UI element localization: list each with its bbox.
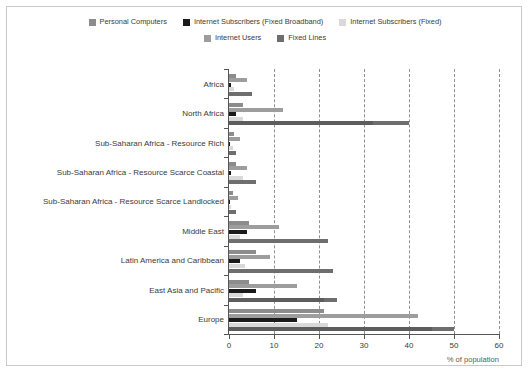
category-label: Africa [204, 79, 224, 88]
tick-50 [454, 334, 455, 339]
legend-swatch-internet-subscribers-fixed-broadband [183, 19, 190, 26]
bar [229, 259, 240, 263]
y-axis-tick [224, 128, 229, 129]
legend-label-internet-users: Internet Users [215, 32, 261, 44]
tick-0 [229, 334, 230, 339]
y-axis-tick [224, 69, 229, 70]
legend-label-personal-computers: Personal Computers [100, 16, 167, 28]
bar [229, 250, 256, 254]
bar-group: Sub-Saharan Africa - Resource Rich [229, 128, 499, 157]
plot-area: 0102030405060 AfricaNorth AfricaSub-Saha… [228, 69, 499, 334]
bar [229, 112, 236, 116]
bar-group: Europe [229, 305, 499, 334]
bar [229, 309, 324, 313]
bar [229, 108, 283, 112]
bar [229, 151, 236, 155]
legend-entry-fixed-lines[interactable]: Fixed Lines [277, 32, 326, 44]
legend-row-1: Personal Computers Internet Subscribers … [7, 16, 523, 28]
bar [229, 176, 243, 180]
bar [229, 92, 252, 96]
legend-label-internet-subscribers-fixed: Internet Subscribers (Fixed) [350, 16, 441, 28]
bar [229, 180, 256, 184]
bar [229, 284, 297, 288]
tick-label-60: 60 [495, 341, 504, 350]
gridline-60 [499, 69, 500, 334]
y-axis-tick [224, 305, 229, 306]
bar [229, 230, 247, 234]
bar [229, 103, 243, 107]
bar [229, 142, 230, 146]
tick-30 [364, 334, 365, 339]
bar [229, 146, 233, 150]
category-label: Sub-Saharan Africa - Resource Rich [95, 138, 224, 147]
bar [229, 87, 234, 91]
category-label: Sub-Saharan Africa - Resource Scarce Coa… [57, 168, 224, 177]
bar-group: Sub-Saharan Africa - Resource Scarce Lan… [229, 187, 499, 216]
y-axis-tick [224, 187, 229, 188]
legend-row-2: Internet Users Fixed Lines [7, 32, 523, 44]
bar [229, 293, 243, 297]
category-label: Sub-Saharan Africa - Resource Scarce Lan… [43, 197, 224, 206]
y-axis-tick [224, 334, 229, 335]
y-axis-tick [224, 246, 229, 247]
tick-label-0: 0 [227, 341, 231, 350]
legend-entry-internet-users[interactable]: Internet Users [204, 32, 261, 44]
bar-overlay [229, 327, 432, 331]
bar [229, 323, 328, 327]
bar [229, 83, 231, 87]
y-axis-tick [224, 275, 229, 276]
legend-label-fixed-lines: Fixed Lines [288, 32, 326, 44]
legend-swatch-internet-subscribers-fixed [339, 19, 346, 26]
tick-40 [409, 334, 410, 339]
bar [229, 205, 231, 209]
tick-60 [499, 334, 500, 339]
bar [229, 137, 240, 141]
legend-swatch-fixed-lines [277, 35, 284, 42]
bar-overlay [229, 121, 373, 125]
bar [229, 162, 236, 166]
bar [229, 225, 279, 229]
tick-label-50: 50 [450, 341, 459, 350]
y-axis-tick [224, 216, 229, 217]
category-label: Europe [198, 315, 224, 324]
bar [229, 269, 333, 273]
bar [229, 74, 236, 78]
x-axis-label: % of population [447, 355, 499, 364]
bar [229, 289, 256, 293]
bar [229, 117, 243, 121]
category-label: Latin America and Caribbean [121, 256, 224, 265]
category-label: North Africa [182, 109, 224, 118]
bar-group: Sub-Saharan Africa - Resource Scarce Coa… [229, 157, 499, 186]
category-label: Middle East [182, 226, 224, 235]
tick-label-20: 20 [315, 341, 324, 350]
y-axis-tick [224, 98, 229, 99]
bar [229, 196, 238, 200]
bar-group: Africa [229, 69, 499, 98]
legend-entry-personal-computers[interactable]: Personal Computers [89, 16, 167, 28]
bar [229, 200, 230, 204]
category-label: East Asia and Pacific [149, 285, 224, 294]
legend-label-internet-subscribers-fixed-broadband: Internet Subscribers (Fixed Broadband) [194, 16, 323, 28]
bar [229, 78, 247, 82]
y-axis-tick [224, 157, 229, 158]
bar [229, 239, 328, 243]
tick-20 [319, 334, 320, 339]
legend-swatch-personal-computers [89, 19, 96, 26]
tick-10 [274, 334, 275, 339]
tick-label-10: 10 [270, 341, 279, 350]
tick-label-40: 40 [405, 341, 414, 350]
bar [229, 171, 231, 175]
legend-swatch-internet-users [204, 35, 211, 42]
bar [229, 314, 418, 318]
bar [229, 132, 234, 136]
bar [229, 264, 245, 268]
bar-group: Latin America and Caribbean [229, 246, 499, 275]
legend-entry-internet-subscribers-fixed[interactable]: Internet Subscribers (Fixed) [339, 16, 441, 28]
bar-group: North Africa [229, 98, 499, 127]
tick-label-30: 30 [360, 341, 369, 350]
legend-entry-internet-subscribers-fixed-broadband[interactable]: Internet Subscribers (Fixed Broadband) [183, 16, 323, 28]
bar [229, 210, 236, 214]
bar [229, 221, 249, 225]
bar [229, 318, 297, 322]
bar [229, 255, 270, 259]
